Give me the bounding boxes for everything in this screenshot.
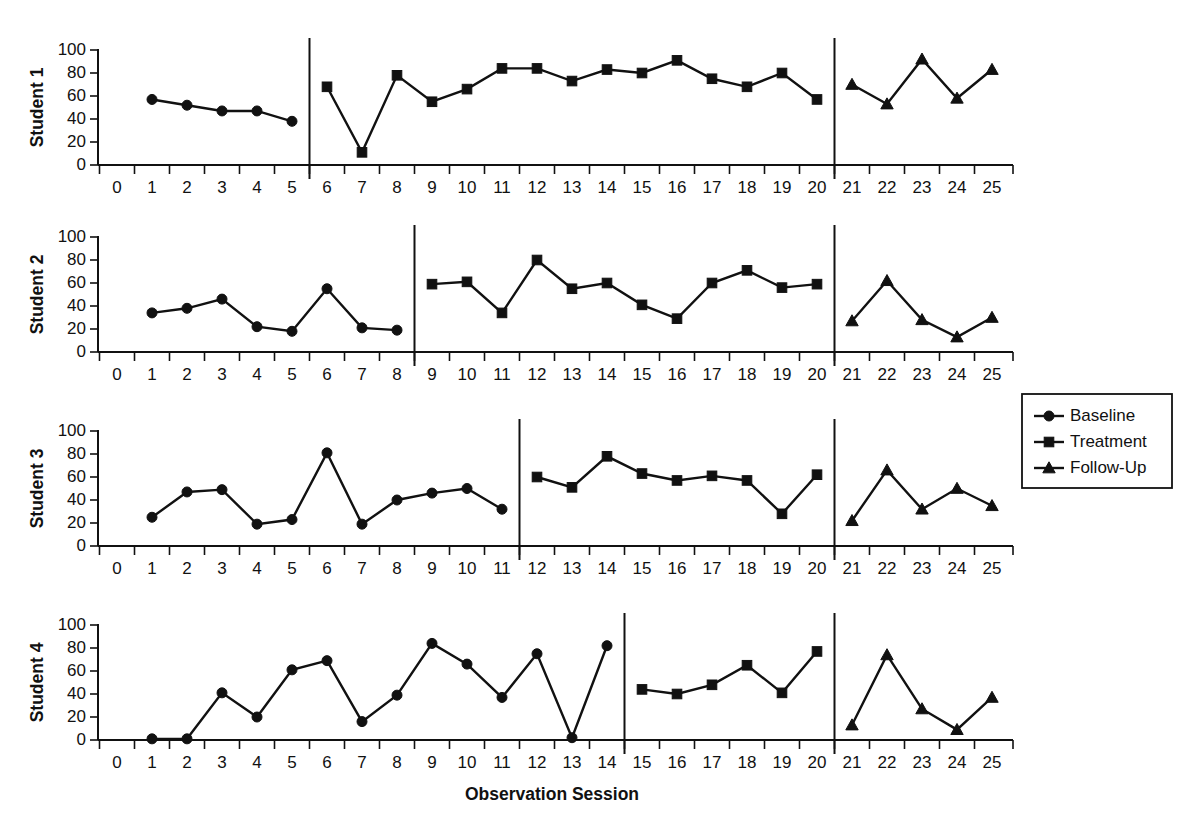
data-point-treatment-10 [462,84,472,94]
y-tick-label: 60 [67,467,86,486]
x-tick-label: 12 [528,559,547,578]
x-tick-label: 1 [147,753,156,772]
data-point-treatment-10 [462,277,472,287]
x-tick-label: 24 [948,559,967,578]
data-point-treatment-19 [777,283,787,293]
x-tick-label: 16 [668,365,687,384]
x-tick-label: 18 [738,559,757,578]
data-point-follow-up-24 [951,482,963,493]
data-point-treatment-13 [567,483,577,493]
data-point-treatment-19 [777,688,787,698]
y-tick-label: 40 [67,296,86,315]
data-point-treatment-12 [532,255,542,265]
x-tick-label: 14 [598,559,617,578]
y-tick-label: 100 [58,615,86,634]
data-point-treatment-16 [672,314,682,324]
x-tick-label: 23 [913,178,932,197]
x-tick-label: 19 [773,365,792,384]
y-tick-label: 80 [67,444,86,463]
data-point-baseline-11 [497,692,507,702]
data-point-follow-up-21 [846,78,858,89]
x-tick-label: 22 [878,178,897,197]
x-tick-label: 3 [217,559,226,578]
x-tick-label: 21 [843,178,862,197]
data-point-treatment-18 [742,660,752,670]
data-point-baseline-4 [252,106,262,116]
x-tick-label: 3 [217,365,226,384]
data-point-follow-up-25 [986,63,998,74]
x-tick-label: 9 [427,753,436,772]
y-tick-label: 40 [67,684,86,703]
x-tick-label: 23 [913,753,932,772]
data-point-baseline-5 [287,116,297,126]
x-tick-label: 7 [357,559,366,578]
x-tick-label: 9 [427,559,436,578]
x-tick-label: 20 [808,365,827,384]
data-point-treatment-11 [497,64,507,74]
data-point-baseline-4 [252,519,262,529]
panel-label-1: Student 1 [27,67,47,147]
x-tick-label: 8 [392,365,401,384]
data-point-baseline-9 [427,638,437,648]
x-tick-label: 23 [913,365,932,384]
panel-label-2: Student 2 [27,254,47,334]
data-point-baseline-7 [357,717,367,727]
data-point-baseline-10 [462,484,472,494]
data-point-follow-up-25 [986,500,998,511]
data-point-baseline-7 [357,519,367,529]
data-point-baseline-2 [182,303,192,313]
x-tick-label: 15 [633,178,652,197]
x-tick-label: 19 [773,178,792,197]
data-point-treatment-14 [602,65,612,75]
x-tick-label: 3 [217,178,226,197]
data-point-treatment-15 [637,469,647,479]
data-point-treatment-19 [777,68,787,78]
x-tick-label: 10 [458,753,477,772]
data-point-treatment-7 [357,148,367,158]
x-tick-label: 7 [357,365,366,384]
data-point-treatment-12 [532,472,542,482]
x-tick-label: 0 [112,559,121,578]
y-tick-label: 60 [67,661,86,680]
x-tick-label: 23 [913,559,932,578]
y-tick-label: 0 [77,730,86,749]
x-tick-label: 17 [703,753,722,772]
x-tick-label: 0 [112,178,121,197]
data-point-treatment-9 [427,97,437,107]
data-point-treatment-17 [707,74,717,84]
series-line-treatment [642,651,817,694]
data-point-treatment-16 [672,56,682,66]
x-tick-label: 9 [427,365,436,384]
data-point-baseline-6 [322,656,332,666]
x-tick-label: 13 [563,559,582,578]
x-tick-label: 5 [287,753,296,772]
y-tick-label: 20 [67,513,86,532]
x-tick-label: 19 [773,753,792,772]
x-tick-label: 2 [182,753,191,772]
legend-marker-circle [1044,411,1054,421]
x-tick-label: 4 [252,365,261,384]
x-tick-label: 16 [668,178,687,197]
data-point-follow-up-24 [951,331,963,342]
x-axis-title: Observation Session [465,784,639,804]
x-tick-label: 5 [287,365,296,384]
x-tick-label: 7 [357,753,366,772]
x-tick-label: 21 [843,753,862,772]
x-tick-label: 0 [112,365,121,384]
data-point-baseline-6 [322,448,332,458]
x-tick-label: 8 [392,559,401,578]
data-point-treatment-15 [637,685,647,695]
data-point-baseline-1 [147,308,157,318]
data-point-baseline-4 [252,322,262,332]
x-tick-label: 12 [528,365,547,384]
x-tick-label: 21 [843,365,862,384]
x-tick-label: 11 [493,559,511,578]
data-point-treatment-17 [707,278,717,288]
data-point-baseline-7 [357,323,367,333]
data-point-treatment-17 [707,471,717,481]
x-tick-label: 24 [948,178,967,197]
y-tick-label: 100 [58,40,86,59]
x-tick-label: 9 [427,178,436,197]
data-point-follow-up-22 [881,464,893,475]
x-tick-label: 1 [147,178,156,197]
